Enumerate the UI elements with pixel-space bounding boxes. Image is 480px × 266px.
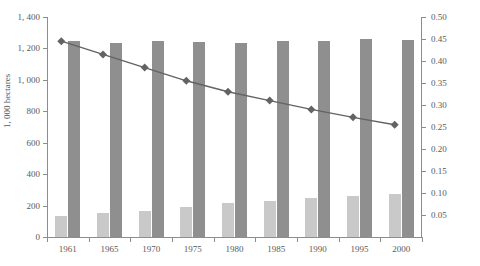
line-marker-diamond xyxy=(57,37,65,45)
x-tick-label: 1990 xyxy=(309,245,327,254)
bar-light xyxy=(347,196,359,237)
x-tick-mark xyxy=(172,237,173,242)
bar-light xyxy=(55,216,67,237)
right-tick-label: 0.10 xyxy=(431,189,447,198)
right-tick-label: 0.05 xyxy=(431,211,447,220)
left-tick-mark xyxy=(43,80,48,81)
x-tick-label: 1980 xyxy=(226,245,244,254)
bar-dark xyxy=(193,42,205,237)
left-tick-mark xyxy=(43,206,48,207)
bar-dark xyxy=(68,41,80,237)
right-tick-mark xyxy=(421,215,426,216)
bar-dark xyxy=(152,41,164,237)
right-tick-mark xyxy=(421,171,426,172)
bar-dark xyxy=(360,39,372,237)
left-tick-mark xyxy=(43,111,48,112)
x-tick-label: 1970 xyxy=(142,245,160,254)
left-tick-label: 1, 200 xyxy=(18,44,41,53)
right-tick-mark xyxy=(421,83,426,84)
x-tick-label: 1961 xyxy=(59,245,77,254)
x-tick-mark xyxy=(380,237,381,242)
right-tick-mark xyxy=(421,61,426,62)
bar-dark xyxy=(318,41,330,237)
x-tick-label: 1965 xyxy=(101,245,119,254)
right-tick-label: 0.25 xyxy=(431,123,447,132)
x-tick-mark xyxy=(214,237,215,242)
bar-light xyxy=(389,194,401,237)
x-tick-mark xyxy=(47,237,48,242)
bar-light xyxy=(139,211,151,237)
x-tick-label: 1995 xyxy=(351,245,369,254)
bar-light xyxy=(305,198,317,237)
left-tick-mark xyxy=(43,17,48,18)
chart-container: 1, 000 hectares 02004006008001, 0001, 20… xyxy=(0,0,480,266)
right-tick-mark xyxy=(421,39,426,40)
left-tick-label: 600 xyxy=(27,138,41,147)
left-tick-mark xyxy=(43,143,48,144)
right-tick-mark xyxy=(421,127,426,128)
right-tick-label: 0.30 xyxy=(431,101,447,110)
bar-light xyxy=(264,201,276,237)
bar-dark xyxy=(277,41,289,237)
left-tick-label: 0 xyxy=(36,233,41,242)
right-tick-label: 0.40 xyxy=(431,57,447,66)
x-tick-mark xyxy=(422,237,423,242)
left-tick-label: 1, 400 xyxy=(18,13,41,22)
bar-light xyxy=(97,213,109,237)
left-tick-label: 400 xyxy=(27,170,41,179)
line-marker-diamond xyxy=(182,77,190,85)
left-tick-mark xyxy=(43,48,48,49)
right-tick-label: 0.35 xyxy=(431,79,447,88)
line-marker-diamond xyxy=(349,113,357,121)
left-tick-label: 800 xyxy=(27,107,41,116)
bar-dark xyxy=(235,43,247,237)
left-tick-label: 1, 000 xyxy=(18,75,41,84)
line-marker-diamond xyxy=(141,64,149,72)
line-marker-diamond xyxy=(224,88,232,96)
bar-dark xyxy=(110,43,122,237)
bar-dark xyxy=(402,40,414,237)
right-tick-mark xyxy=(421,17,426,18)
bottom-axis-line xyxy=(47,237,422,238)
x-tick-label: 1975 xyxy=(184,245,202,254)
left-tick-label: 200 xyxy=(27,201,41,210)
x-tick-mark xyxy=(297,237,298,242)
x-tick-mark xyxy=(130,237,131,242)
x-tick-label: 2000 xyxy=(392,245,410,254)
x-tick-label: 1985 xyxy=(267,245,285,254)
x-tick-mark xyxy=(89,237,90,242)
plot-area: 02004006008001, 0001, 2001, 400 0.050.10… xyxy=(47,17,422,238)
right-tick-label: 0.50 xyxy=(431,13,447,22)
x-tick-mark xyxy=(339,237,340,242)
right-tick-label: 0.15 xyxy=(431,167,447,176)
right-tick-label: 0.45 xyxy=(431,35,447,44)
x-tick-mark xyxy=(255,237,256,242)
bar-light xyxy=(180,207,192,237)
line-marker-diamond xyxy=(266,97,274,105)
right-tick-mark xyxy=(421,193,426,194)
line-marker-diamond xyxy=(307,105,315,113)
line-marker-diamond xyxy=(99,50,107,58)
bar-light xyxy=(222,203,234,237)
right-tick-mark xyxy=(421,105,426,106)
right-tick-label: 0.20 xyxy=(431,145,447,154)
y-axis-title: 1, 000 hectares xyxy=(2,74,12,128)
left-tick-mark xyxy=(43,174,48,175)
right-tick-mark xyxy=(421,149,426,150)
line-marker-diamond xyxy=(391,121,399,129)
